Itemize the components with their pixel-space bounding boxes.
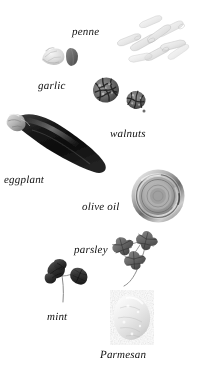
parmesan-wedge-icon bbox=[110, 292, 160, 342]
penne-pasta-icon bbox=[112, 10, 190, 68]
mint-label: mint bbox=[47, 312, 67, 323]
olive-oil-jar-icon bbox=[130, 168, 186, 224]
eggplant-icon bbox=[2, 106, 114, 178]
walnuts-label: walnuts bbox=[110, 129, 146, 140]
ingredients-plate: penne bbox=[0, 0, 200, 369]
olive-oil-label: olive oil bbox=[82, 202, 120, 213]
parsley-sprig-icon bbox=[104, 228, 166, 288]
mint-sprig-icon bbox=[42, 258, 92, 306]
garlic-label: garlic bbox=[38, 81, 65, 92]
eggplant-label: eggplant bbox=[4, 175, 44, 186]
parmesan-label: Parmesan bbox=[100, 350, 146, 361]
garlic-bulb-icon bbox=[40, 44, 82, 68]
penne-label: penne bbox=[72, 27, 99, 38]
parsley-label: parsley bbox=[74, 245, 108, 256]
